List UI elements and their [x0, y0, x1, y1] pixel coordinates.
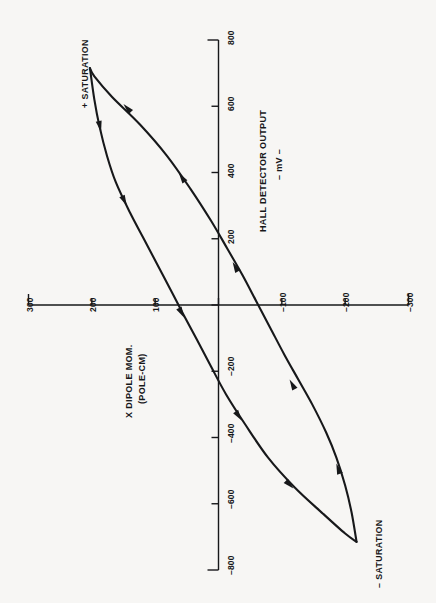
y-axis-title-line1: HALL DETECTOR OUTPUT: [258, 110, 268, 232]
y-axis-tick-label: 600: [226, 96, 236, 111]
y-axis-tick-label: 400: [226, 163, 236, 178]
y-axis-title-line2: – mV –: [274, 149, 284, 180]
annotation-positive-saturation: + SATURATION: [80, 39, 90, 108]
y-axis-tick-label: –800: [226, 555, 236, 575]
x-axis-title-line2: (POLE-CM): [137, 353, 147, 404]
x-axis-tick-label: –300: [405, 292, 415, 312]
x-axis-tick-label: –100: [278, 292, 288, 312]
arrow-layer: [96, 104, 343, 488]
direction-arrow-marker: [96, 121, 102, 132]
hysteresis-loop-figure: 300200100–100–200–300800600400200–200–40…: [0, 0, 436, 603]
direction-arrow-marker: [290, 380, 298, 391]
y-axis-tick-label: 800: [226, 30, 236, 45]
y-axis-tick-label: –600: [226, 489, 236, 509]
axes-layer: [29, 40, 409, 570]
y-axis-tick-label: –200: [226, 357, 236, 377]
x-axis-tick-label: 200: [88, 297, 98, 312]
x-axis-title-line1: X DIPOLE MOM.: [124, 344, 134, 418]
x-axis-tick-label: 100: [151, 297, 161, 312]
y-axis-tick-label: –400: [226, 423, 236, 443]
x-axis-tick-label: 300: [25, 297, 35, 312]
direction-arrow-marker: [119, 195, 127, 206]
x-axis-tick-label: –200: [341, 292, 351, 312]
annotation-negative-saturation: – SATURATION: [374, 520, 384, 589]
y-axis-tick-label: 200: [226, 229, 236, 244]
plot-canvas: [0, 0, 436, 603]
